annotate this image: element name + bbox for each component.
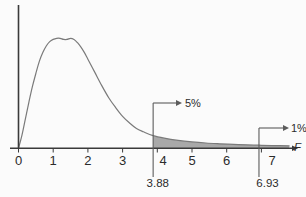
x-tick-label-0: 0	[15, 154, 22, 167]
x-tick-label-5: 5	[188, 154, 195, 167]
x-axis-name: F	[294, 142, 301, 154]
x-tick-label-2: 2	[84, 154, 91, 167]
x-tick-label-6: 6	[223, 154, 230, 167]
callout-arrow-5pct	[176, 100, 182, 106]
x-tick-label-1: 1	[50, 154, 57, 167]
shaded-tail-area	[152, 135, 289, 148]
f-distribution-chart: 0 1 2 3 4 5 6 7 F 3.88 6.93 5% 1%	[0, 0, 306, 197]
callout-arrow-1pct	[283, 125, 289, 131]
tail-callout-5pct: 5%	[185, 98, 201, 109]
density-curve-main	[19, 38, 290, 148]
x-tick-label-3: 3	[119, 154, 126, 167]
x-tick-label-4: 4	[159, 154, 166, 167]
tail-callout-1pct: 1%	[291, 123, 306, 134]
critical-value-label-693: 6.93	[256, 178, 278, 190]
critical-value-label-388: 3.88	[147, 178, 169, 190]
chart-canvas	[0, 0, 306, 197]
x-tick-label-7: 7	[268, 154, 275, 167]
